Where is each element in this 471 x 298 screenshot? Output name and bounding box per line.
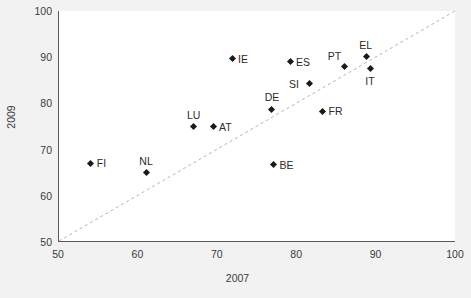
data-point-label: FR xyxy=(329,106,343,117)
y-tick-label: 70 xyxy=(40,145,52,156)
data-point-label: LU xyxy=(187,110,200,121)
diagonal-reference-line xyxy=(59,11,455,241)
data-point-label: IT xyxy=(365,76,374,87)
x-tick-label: 100 xyxy=(435,249,471,260)
x-axis-label: 2007 xyxy=(0,272,471,284)
data-point-label: ES xyxy=(296,57,310,68)
data-point-label: FI xyxy=(97,158,106,169)
plot-area: FINLLUATIEDEBEESSIFRPTELIT xyxy=(58,11,455,242)
y-axis-label: 2009 xyxy=(5,82,17,152)
data-point-label: PT xyxy=(328,51,341,62)
data-point-label: SI xyxy=(289,79,299,90)
x-tick-label: 80 xyxy=(276,249,316,260)
data-point-label: BE xyxy=(279,160,293,171)
data-point-label: AT xyxy=(219,122,232,133)
data-point-label: IE xyxy=(238,54,248,65)
y-tick-label: 60 xyxy=(40,191,52,202)
x-tick-label: 60 xyxy=(117,249,157,260)
reference-line-layer xyxy=(59,11,455,241)
x-tick-label: 50 xyxy=(38,249,78,260)
y-tick-label: 100 xyxy=(34,6,52,17)
data-point-label: NL xyxy=(139,156,152,167)
x-axis-ticks: 5060708090100 xyxy=(0,249,471,265)
y-tick-label: 80 xyxy=(40,98,52,109)
scatter-chart: 5060708090100 2009 FINLLUATIEDEBEESSIFRP… xyxy=(0,0,471,298)
y-tick-label: 50 xyxy=(40,237,52,248)
x-tick-label: 90 xyxy=(356,249,396,260)
data-point-label: DE xyxy=(265,92,280,103)
data-point-label: EL xyxy=(359,40,372,51)
x-tick-label: 70 xyxy=(197,249,237,260)
x-axis-label-text: 2007 xyxy=(226,272,249,284)
y-tick-label: 90 xyxy=(40,52,52,63)
